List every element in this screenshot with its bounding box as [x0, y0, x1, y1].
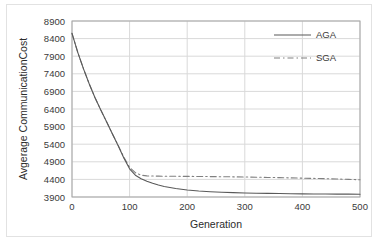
y-axis-title: Avgerage CommunicationCost: [17, 38, 29, 180]
chart-figure: 3900440049005400590064006900740079008400…: [0, 0, 385, 249]
y-tick-label: 4900: [44, 156, 65, 167]
x-tick-label: 0: [69, 201, 74, 212]
y-tick-label: 7900: [44, 51, 65, 62]
x-tick-label: 100: [122, 201, 138, 212]
x-tick-label: 200: [179, 201, 195, 212]
y-tick-label: 3900: [44, 192, 65, 203]
y-tick-label: 6400: [44, 104, 65, 115]
y-axis-tick-labels: 3900440049005400590064006900740079008400…: [44, 16, 65, 203]
y-tick-label: 7400: [44, 68, 65, 79]
y-tick-label: 6900: [44, 86, 65, 97]
legend-label-aga: AGA: [316, 29, 337, 40]
x-axis-tick-labels: 0100200300400500: [69, 201, 368, 212]
y-tick-label: 8900: [44, 16, 65, 27]
x-tick-label: 500: [352, 201, 368, 212]
x-tick-label: 300: [237, 201, 253, 212]
y-tick-label: 5900: [44, 121, 65, 132]
x-axis-title: Generation: [190, 218, 242, 230]
y-tick-label: 4400: [44, 174, 65, 185]
x-tick-label: 400: [294, 201, 310, 212]
line-chart: 3900440049005400590064006900740079008400…: [0, 0, 385, 249]
y-tick-label: 8400: [44, 33, 65, 44]
legend-label-sga: SGA: [316, 52, 337, 63]
y-tick-label: 5400: [44, 139, 65, 150]
